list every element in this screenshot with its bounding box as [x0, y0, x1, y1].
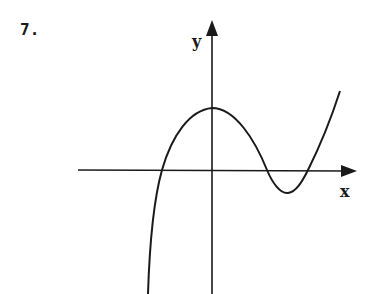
function-curve [148, 91, 340, 294]
y-axis-arrow-icon [206, 20, 218, 36]
graph: y x [0, 0, 376, 294]
x-axis-label: x [340, 182, 350, 201]
x-axis-arrow-icon [341, 165, 357, 177]
y-axis-label: y [191, 32, 202, 51]
